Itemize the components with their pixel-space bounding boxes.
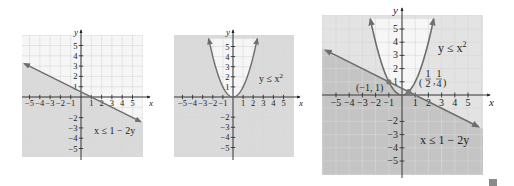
y-tick-label: 2 (393, 63, 398, 74)
y-tick-label: 2 (225, 72, 229, 82)
x-tick-label: −2 (370, 97, 381, 108)
y-tick-label: −4 (387, 142, 398, 153)
x-tick-label: 3 (439, 97, 444, 108)
intersection-point (386, 79, 391, 84)
x-tick-label: −4 (344, 97, 355, 108)
y-tick-label: −3 (387, 129, 398, 140)
y-tick-label: 2 (73, 71, 77, 81)
y-tick-label: −2 (220, 112, 229, 122)
y-tick-label: −3 (68, 123, 77, 133)
graph-system-solution: −5−4−3−2−11234554321−2−3−4−5xy(−1, 1)(12… (322, 4, 494, 178)
y-tick-label: 3 (225, 62, 229, 72)
y-tick-label: −2 (68, 113, 77, 123)
inequality-label: x ≤ 1 − 2y (94, 125, 135, 136)
x-tick-label: −4 (35, 98, 45, 108)
y-tick-label: −3 (220, 122, 229, 132)
y-tick-label: −4 (68, 133, 78, 143)
inequality-label-parabola: y ≤ x2 (438, 40, 467, 55)
y-tick-label: −4 (220, 132, 230, 142)
svg-text:2: 2 (426, 78, 431, 89)
x-tick-label: 4 (452, 97, 457, 108)
x-tick-label: 1 (89, 98, 93, 108)
x-tick-label: −5 (25, 98, 34, 108)
x-tick-label: −3 (46, 98, 55, 108)
y-tick-label: 5 (393, 23, 398, 34)
point-label-neg1-1: (−1, 1) (356, 82, 383, 94)
x-tick-label: 3 (261, 98, 265, 108)
y-axis-label: y (73, 27, 78, 37)
x-tick-label: −1 (66, 98, 75, 108)
x-tick-label: −1 (218, 98, 227, 108)
y-tick-label: 1 (225, 82, 229, 92)
x-tick-label: −5 (331, 97, 342, 108)
corner-marker (489, 179, 497, 186)
x-tick-label: 5 (130, 98, 134, 108)
x-tick-label: 2 (251, 98, 255, 108)
x-tick-label: 1 (241, 98, 245, 108)
y-tick-label: 5 (225, 42, 229, 52)
x-tick-label: −5 (178, 98, 187, 108)
x-tick-label: −3 (198, 98, 207, 108)
x-axis-label: x (488, 96, 494, 108)
svg-text:,: , (433, 75, 436, 86)
y-axis-label: y (225, 27, 230, 37)
x-tick-label: −1 (383, 97, 394, 108)
graph-x-le-1-minus-2y: −5−4−3−2−11234554321−2−3−4−5xyx ≤ 1 − 2y (22, 27, 153, 160)
svg-text:): ) (443, 77, 446, 89)
x-axis-label: x (148, 98, 153, 108)
graph-y-le-x-squared: −5−4−3−2−11234554321−2−3−4−5xyy ≤ x2 (174, 27, 303, 160)
x-tick-label: 1 (413, 97, 418, 108)
y-tick-label: 3 (73, 61, 77, 71)
x-tick-label: 4 (271, 98, 276, 108)
x-tick-label: −2 (56, 98, 65, 108)
svg-text:4: 4 (437, 78, 442, 89)
y-tick-label: 3 (393, 49, 398, 60)
y-tick-label: −5 (68, 144, 77, 154)
inequality-label-line: x ≤ 1 − 2y (420, 133, 469, 147)
x-tick-label: 5 (281, 98, 285, 108)
y-tick-label: 4 (393, 36, 398, 47)
y-tick-label: −2 (387, 115, 398, 126)
graphs-canvas: −5−4−3−2−11234554321−2−3−4−5xyx ≤ 1 − 2y… (0, 0, 514, 186)
y-axis-label: y (392, 4, 398, 16)
x-tick-label: −3 (357, 97, 368, 108)
x-tick-label: 5 (466, 97, 471, 108)
y-tick-label: −5 (220, 143, 229, 153)
x-axis-label: x (298, 98, 303, 108)
x-tick-label: −4 (188, 98, 198, 108)
y-tick-label: 5 (73, 41, 77, 51)
x-tick-label: 4 (120, 98, 125, 108)
y-tick-label: −5 (387, 155, 398, 166)
x-tick-label: −2 (208, 98, 217, 108)
intersection-point (406, 89, 411, 94)
